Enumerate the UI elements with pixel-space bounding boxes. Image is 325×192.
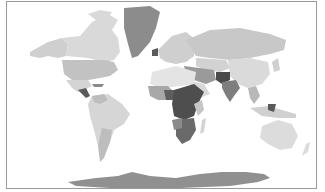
region-southeast-asia[interactable] [248,86,260,104]
world-map [0,0,325,192]
region-madagascar[interactable] [200,118,206,134]
region-angola[interactable] [172,118,182,130]
region-japan[interactable] [272,58,280,72]
region-russia[interactable] [186,28,286,60]
region-india[interactable] [222,80,240,102]
region-uk-ireland[interactable] [152,48,158,56]
region-alaska[interactable] [30,38,68,58]
region-canada[interactable] [62,14,120,62]
region-new-zealand[interactable] [302,142,310,156]
region-antarctica[interactable] [68,172,270,188]
region-caribbean[interactable] [92,84,104,87]
region-australia[interactable] [260,120,298,150]
region-europe[interactable] [158,32,196,64]
region-usa[interactable] [62,60,118,80]
